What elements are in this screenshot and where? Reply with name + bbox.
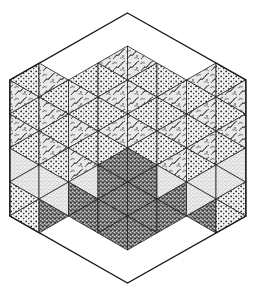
triangle-cells bbox=[10, 46, 246, 250]
hexagon-figure bbox=[0, 0, 255, 296]
